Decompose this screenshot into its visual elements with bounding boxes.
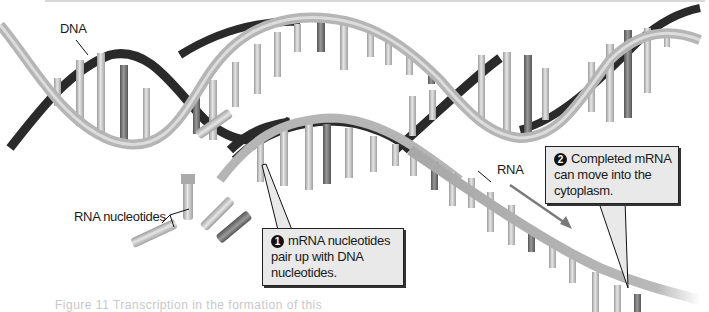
rna-label: RNA — [497, 162, 524, 177]
step-2-badge: 2 — [554, 153, 567, 166]
callout-1-line-2: pair up with DNA — [271, 249, 397, 265]
callout-2-line-1: 2Completed mRNA — [554, 151, 672, 167]
rna-nucleotides-label: RNA nucleotides — [74, 209, 166, 224]
figure-caption: Figure 11 Transcription in the formation… — [55, 298, 322, 312]
callout-2-line-2: can move into the — [554, 167, 672, 183]
callout-1-line-3: nucleotides. — [271, 265, 397, 281]
callout-1-line-1: 1mRNA nucleotides — [271, 233, 397, 249]
step-1-badge: 1 — [271, 235, 284, 248]
dna-label: DNA — [60, 21, 87, 36]
callout-step-1: 1mRNA nucleotides pair up with DNA nucle… — [262, 228, 404, 286]
transcription-diagram: DNA RNA RNA nucleotides 1mRNA nucleotide… — [0, 0, 709, 312]
callout-step-2: 2Completed mRNA can move into the cytopl… — [545, 146, 679, 204]
callout-2-line-3: cytoplasm. — [554, 183, 672, 199]
